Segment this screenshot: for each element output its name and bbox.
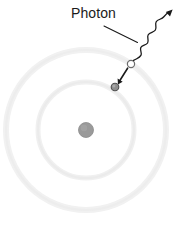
nucleus-highlight-icon <box>81 125 87 131</box>
nucleus-group <box>79 123 94 138</box>
diagram-canvas <box>0 0 183 226</box>
electron-group <box>111 83 119 91</box>
photon-wave-path <box>134 12 170 61</box>
electron-transition-arrow <box>118 68 128 84</box>
photon-arrowhead-icon <box>166 10 173 17</box>
photon-leader-line <box>104 26 138 43</box>
page-title: Photon <box>71 5 116 21</box>
photon-wave-arrow <box>134 10 173 61</box>
electron <box>111 83 119 91</box>
electron-highlight-icon <box>112 84 115 87</box>
photon-emission-diagram: Photon <box>0 0 183 226</box>
electron-initial-position <box>127 60 134 67</box>
